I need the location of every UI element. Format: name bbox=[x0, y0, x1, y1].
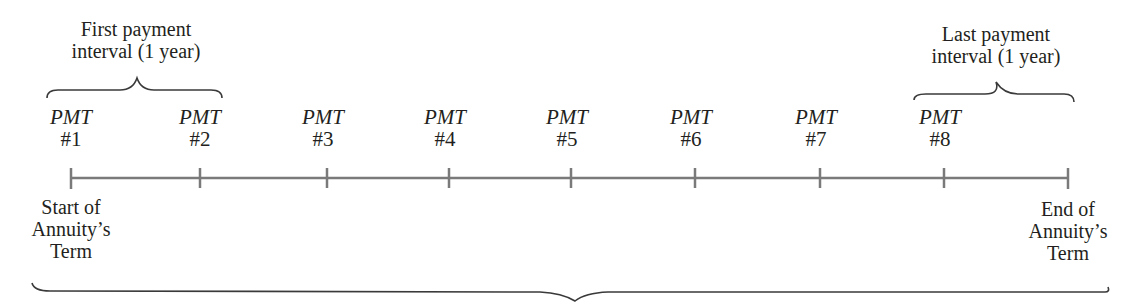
pmt-word: PMT bbox=[795, 106, 837, 128]
first-interval-label: First payment interval (1 year) bbox=[72, 18, 201, 62]
pmt-label-2: PMT #2 bbox=[179, 106, 221, 150]
first-interval-line2: interval (1 year) bbox=[72, 40, 201, 62]
pmt-label-5: PMT #5 bbox=[546, 106, 588, 150]
pmt-word: PMT bbox=[424, 106, 466, 128]
end-line3: Term bbox=[1029, 242, 1108, 264]
pmt-number: #5 bbox=[546, 128, 588, 150]
pmt-number: #4 bbox=[424, 128, 466, 150]
start-of-term-label: Start of Annuity’s Term bbox=[32, 196, 111, 262]
pmt-label-4: PMT #4 bbox=[424, 106, 466, 150]
pmt-word: PMT bbox=[670, 106, 712, 128]
end-line1: End of bbox=[1029, 198, 1108, 220]
last-interval-brace bbox=[914, 82, 1074, 102]
pmt-label-3: PMT #3 bbox=[302, 106, 344, 150]
pmt-label-6: PMT #6 bbox=[670, 106, 712, 150]
pmt-label-8: PMT #8 bbox=[919, 106, 961, 150]
first-interval-line1: First payment bbox=[72, 18, 201, 40]
pmt-word: PMT bbox=[179, 106, 221, 128]
end-line2: Annuity’s bbox=[1029, 220, 1108, 242]
start-line3: Term bbox=[32, 240, 111, 262]
last-interval-line2: interval (1 year) bbox=[932, 45, 1061, 67]
annuity-timeline-diagram: First payment interval (1 year) Last pay… bbox=[0, 0, 1142, 303]
end-of-term-label: End of Annuity’s Term bbox=[1029, 198, 1108, 264]
pmt-label-7: PMT #7 bbox=[795, 106, 837, 150]
pmt-number: #7 bbox=[795, 128, 837, 150]
first-interval-brace bbox=[47, 78, 222, 98]
start-line1: Start of bbox=[32, 196, 111, 218]
pmt-word: PMT bbox=[50, 106, 92, 128]
pmt-number: #8 bbox=[919, 128, 961, 150]
pmt-word: PMT bbox=[546, 106, 588, 128]
pmt-number: #2 bbox=[179, 128, 221, 150]
pmt-word: PMT bbox=[919, 106, 961, 128]
last-interval-line1: Last payment bbox=[932, 23, 1061, 45]
last-interval-label: Last payment interval (1 year) bbox=[932, 23, 1061, 67]
pmt-number: #3 bbox=[302, 128, 344, 150]
pmt-word: PMT bbox=[302, 106, 344, 128]
pmt-number: #6 bbox=[670, 128, 712, 150]
pmt-number: #1 bbox=[50, 128, 92, 150]
start-line2: Annuity’s bbox=[32, 218, 111, 240]
pmt-label-1: PMT #1 bbox=[50, 106, 92, 150]
annuity-term-brace bbox=[32, 283, 1109, 301]
